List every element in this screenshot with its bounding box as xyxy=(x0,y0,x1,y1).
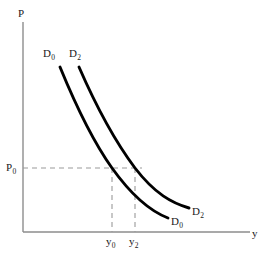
quantity-axis-marker-y0: y0 xyxy=(106,236,116,247)
quantity-axis-marker-y0-text: y xyxy=(106,235,112,247)
curve-label-d2-top: D2 xyxy=(69,48,81,59)
quantity-axis-marker-y0-sub: 0 xyxy=(112,241,116,250)
demand-curve-d2 xyxy=(79,67,189,208)
price-axis-marker-p0: P0 xyxy=(6,162,16,173)
curve-label-d0-top: D0 xyxy=(43,48,55,59)
curve-label-d2-end: D2 xyxy=(192,206,204,217)
demand-curve-d0 xyxy=(60,67,168,218)
demand-curve-figure: P y D0 D2 D0 D2 P0 y0 y2 xyxy=(0,0,273,260)
quantity-axis-marker-y2: y2 xyxy=(129,236,139,247)
curve-label-d2-end-sub: 2 xyxy=(200,211,204,220)
curve-label-d2-top-text: D xyxy=(69,47,77,59)
quantity-axis-marker-y2-sub: 2 xyxy=(135,241,139,250)
x-axis-label: y xyxy=(252,228,258,239)
curve-label-d2-end-text: D xyxy=(192,205,200,217)
curve-label-d0-end-sub: 0 xyxy=(179,221,183,230)
curve-label-d2-top-sub: 2 xyxy=(77,53,81,62)
curve-label-d0-end-text: D xyxy=(171,215,179,227)
plot-canvas xyxy=(0,0,273,260)
curve-label-d0-top-sub: 0 xyxy=(51,53,55,62)
curve-label-d0-top-text: D xyxy=(43,47,51,59)
quantity-axis-marker-y2-text: y xyxy=(129,235,135,247)
y-axis-label: P xyxy=(18,8,24,19)
price-axis-marker-p0-sub: 0 xyxy=(12,167,16,176)
curve-label-d0-end: D0 xyxy=(171,216,183,227)
